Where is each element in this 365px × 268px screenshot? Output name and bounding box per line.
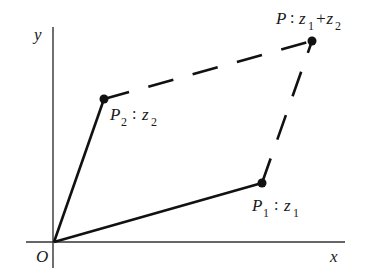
p1-value-sub: 1 bbox=[293, 206, 299, 220]
p2-value-sub: 2 bbox=[151, 115, 157, 129]
p2-value: z bbox=[141, 105, 149, 124]
parallelogram-diagram: y O x P 2 : z 2 P 1 : z 1 P : z 1 +z 2 bbox=[0, 0, 365, 268]
p1-value: z bbox=[283, 196, 291, 215]
origin-label: O bbox=[36, 247, 48, 266]
vector-o-p1 bbox=[54, 183, 262, 242]
x-axis-label: x bbox=[329, 247, 338, 266]
label-p2: P 2 : z 2 bbox=[109, 105, 157, 129]
y-axis-label: y bbox=[32, 25, 42, 44]
point-p bbox=[308, 37, 317, 46]
p-value: z bbox=[298, 9, 306, 28]
label-p1: P 1 : z 1 bbox=[251, 196, 299, 220]
vector-o-p2 bbox=[54, 99, 104, 242]
dashed-p2-p bbox=[104, 41, 312, 99]
p-sep: : bbox=[290, 9, 294, 26]
p-suffix: +z bbox=[315, 9, 333, 28]
p-suffix-sub: 2 bbox=[335, 19, 341, 33]
p-value-sub: 1 bbox=[308, 19, 314, 33]
point-p2 bbox=[100, 95, 109, 104]
p2-name: P bbox=[109, 105, 120, 124]
point-p1 bbox=[258, 179, 267, 188]
p1-sep: : bbox=[274, 196, 278, 213]
p2-sub: 2 bbox=[121, 115, 127, 129]
p2-sep: : bbox=[132, 105, 136, 122]
p1-sub: 1 bbox=[263, 206, 269, 220]
p1-name: P bbox=[251, 196, 262, 215]
dashed-p1-p bbox=[262, 41, 312, 183]
p-name: P bbox=[275, 9, 286, 28]
label-p: P : z 1 +z 2 bbox=[275, 9, 341, 33]
